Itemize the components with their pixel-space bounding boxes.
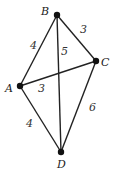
- vertex-label-A: A: [4, 82, 13, 95]
- edge-weight-AD: 4: [25, 117, 33, 130]
- vertex-label-B: B: [40, 5, 49, 18]
- edge-weight-AB: 4: [29, 39, 37, 52]
- edge-weight-BD: 5: [61, 45, 68, 58]
- edge-BD: [57, 15, 61, 152]
- edge-weight-BC: 3: [80, 23, 87, 36]
- vertex-B: [54, 12, 60, 18]
- vertex-label-D: D: [56, 158, 66, 171]
- vertex-A: [17, 83, 23, 89]
- vertex-D: [58, 149, 64, 155]
- edge-weight-CD: 6: [89, 101, 96, 114]
- vertex-C: [93, 58, 99, 64]
- edge-weight-AC: 3: [38, 82, 45, 95]
- vertex-label-C: C: [101, 56, 110, 69]
- weighted-graph-diagram: 435346 ABCD: [0, 0, 115, 171]
